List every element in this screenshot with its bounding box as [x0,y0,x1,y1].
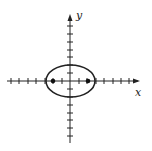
y-axis-label: y [76,10,82,21]
ellipse-diagram [0,0,152,151]
focus-point-right [86,79,91,84]
y-axis-arrow-icon [68,14,73,21]
focus-point-left [51,79,56,84]
x-axis-label: x [135,87,141,98]
x-axis-arrow-icon [133,79,140,84]
